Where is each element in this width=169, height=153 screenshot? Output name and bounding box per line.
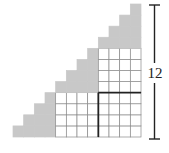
grid-cell-white	[130, 59, 141, 70]
grid-cell-white	[109, 48, 120, 59]
grid-cell-white	[109, 104, 120, 115]
grid-cell-white	[66, 104, 77, 115]
grid-cell-white	[77, 93, 88, 104]
grid-cell-shaded	[45, 93, 56, 104]
grid-cell-shaded	[66, 71, 77, 82]
staircase-diagram: 12	[0, 0, 169, 153]
grid-cell-shaded	[120, 37, 131, 48]
grid-cell-white	[98, 48, 109, 59]
grid-cell-shaded	[88, 59, 99, 70]
grid-cell-white	[88, 115, 99, 126]
grid-cell-shaded	[45, 104, 56, 115]
grid-cell-white	[109, 115, 120, 126]
grid-cell-shaded	[34, 126, 45, 137]
grid-cell-white	[130, 71, 141, 82]
grid-cell-shaded	[13, 126, 24, 137]
grid-cell-shaded	[88, 71, 99, 82]
grid-cell-white	[120, 71, 131, 82]
grid-cell-white	[56, 115, 67, 126]
grid-cell-white	[109, 59, 120, 70]
grid-cell-shaded	[120, 15, 131, 26]
grid-cell-white	[109, 82, 120, 93]
grid-cell-white	[120, 126, 131, 137]
grid-cell-white	[98, 115, 109, 126]
grid-cell-shaded	[24, 126, 35, 137]
grid-cell-white	[77, 115, 88, 126]
grid-cell-white	[98, 104, 109, 115]
grid-cell-white	[120, 82, 131, 93]
grid-cell-white	[98, 93, 109, 104]
grid-cell-shaded	[88, 82, 99, 93]
grid-cell-white	[109, 93, 120, 104]
grid-cell-white	[130, 115, 141, 126]
grid-cell-white	[130, 126, 141, 137]
grid-cell-white	[120, 59, 131, 70]
grid-cell-shaded	[130, 26, 141, 37]
grid-cell-white	[109, 71, 120, 82]
grid-cell-shaded	[130, 4, 141, 15]
grid-cell-white	[109, 126, 120, 137]
grid-cell-white	[56, 126, 67, 137]
grid-cell-white	[66, 126, 77, 137]
grid-cell-shaded	[130, 15, 141, 26]
grid-cell-shaded	[77, 59, 88, 70]
grid-cell-white	[77, 126, 88, 137]
grid-cell-shaded	[56, 82, 67, 93]
grid-cell-white	[120, 104, 131, 115]
grid-cell-white	[56, 104, 67, 115]
grid-cells	[13, 4, 141, 137]
grid-cell-white	[120, 115, 131, 126]
grid-cell-white	[130, 93, 141, 104]
grid-cell-shaded	[77, 82, 88, 93]
grid-cell-shaded	[77, 71, 88, 82]
grid-cell-shaded	[109, 26, 120, 37]
grid-cell-shaded	[109, 37, 120, 48]
grid-cell-white	[130, 82, 141, 93]
grid-cell-white	[130, 48, 141, 59]
grid-cell-white	[120, 48, 131, 59]
grid-cell-white	[98, 71, 109, 82]
grid-cell-white	[66, 93, 77, 104]
grid-cell-shaded	[120, 26, 131, 37]
grid-cell-white	[130, 104, 141, 115]
grid-cell-shaded	[88, 48, 99, 59]
grid-cell-shaded	[45, 115, 56, 126]
grid-cell-shaded	[45, 126, 56, 137]
grid-cell-white	[88, 104, 99, 115]
grid-cell-white	[98, 126, 109, 137]
grid-cell-white	[88, 93, 99, 104]
grid-cell-shaded	[34, 104, 45, 115]
grid-cell-shaded	[98, 37, 109, 48]
grid-cell-shaded	[34, 115, 45, 126]
grid-cell-shaded	[66, 82, 77, 93]
grid-cell-white	[56, 93, 67, 104]
grid-cell-white	[66, 115, 77, 126]
grid-cell-white	[77, 104, 88, 115]
grid-cell-white	[98, 59, 109, 70]
grid-cell-shaded	[130, 37, 141, 48]
grid-cell-white	[98, 82, 109, 93]
grid-cell-white	[120, 93, 131, 104]
grid-cell-white	[88, 126, 99, 137]
height-label: 12	[148, 65, 163, 81]
height-bracket: 12	[146, 5, 164, 139]
grid-cell-shaded	[24, 115, 35, 126]
